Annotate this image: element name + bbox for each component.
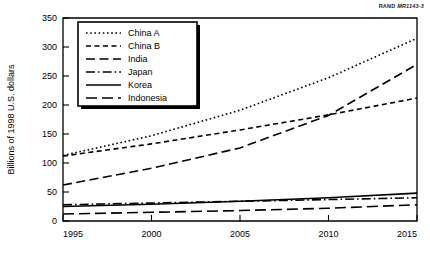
y-tick-label: 100	[42, 158, 57, 168]
y-axis-tick-labels: 050100150200250300350	[42, 13, 57, 226]
legend-label-china-b: China B	[128, 41, 160, 51]
x-axis-tick-labels: 19952000200520102015	[63, 229, 417, 239]
y-tick-label: 150	[42, 129, 57, 139]
x-tick-label: 1995	[63, 229, 83, 239]
y-axis-title: Billions of 1998 U.S. dollars	[6, 64, 16, 175]
x-tick-label: 2005	[230, 229, 250, 239]
x-axis-ticks	[63, 215, 417, 221]
legend-label-japan: Japan	[128, 67, 153, 77]
y-axis-ticks	[63, 18, 69, 221]
y-tick-label: 300	[42, 42, 57, 52]
x-tick-label: 2000	[141, 229, 161, 239]
chart-legend: China AChina BIndiaJapanKoreaIndonesia	[78, 22, 200, 109]
line-chart: 050100150200250300350 199520002005201020…	[0, 0, 430, 259]
figure-container: RAND MR1143-3 050100150200250300350 1995…	[0, 0, 430, 259]
rand-tag-id: MR1143-3	[397, 3, 424, 9]
y-axis-title-text: Billions of 1998 U.S. dollars	[6, 64, 16, 175]
x-tick-label: 2015	[397, 229, 417, 239]
y-tick-label: 200	[42, 100, 57, 110]
x-tick-label: 2010	[318, 229, 338, 239]
series-line-korea	[63, 193, 417, 206]
legend-label-indonesia: Indonesia	[128, 93, 167, 103]
series-line-indonesia	[63, 205, 417, 214]
legend-label-china-a: China A	[128, 28, 160, 38]
y-tick-label: 250	[42, 71, 57, 81]
y-tick-label: 50	[47, 187, 57, 197]
y-tick-label: 350	[42, 13, 57, 23]
legend-label-india: India	[128, 54, 148, 64]
rand-tag-prefix: RAND	[379, 3, 396, 9]
y-tick-label: 0	[52, 216, 57, 226]
rand-source-tag: RAND MR1143-3	[379, 3, 424, 9]
legend-label-korea: Korea	[128, 80, 152, 90]
